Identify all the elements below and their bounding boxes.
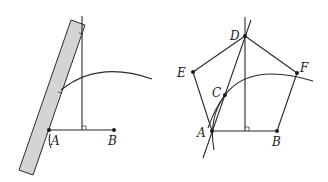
right-angle-marker [82, 126, 86, 130]
label-d: D [229, 29, 240, 43]
arc-large [61, 72, 152, 90]
edge-ea [193, 72, 212, 131]
label-a: A [50, 134, 60, 148]
point-d [243, 34, 247, 38]
point-e [191, 70, 195, 74]
point-b [112, 128, 116, 132]
edge-fd [245, 36, 297, 73]
left-figure: A B [19, 16, 152, 175]
point-a [210, 129, 214, 133]
ruler [19, 20, 85, 175]
edge-bf [277, 73, 297, 131]
label-b: B [271, 135, 281, 149]
arc-cf [212, 74, 313, 150]
point-b [275, 129, 279, 133]
label-a: A [196, 126, 206, 140]
right-figure: A B C D E F [176, 17, 313, 158]
label-b: B [107, 134, 117, 148]
geometry-diagram: A B A B C D E F [0, 0, 328, 182]
label-c: C [212, 86, 221, 100]
label-f: F [299, 61, 309, 75]
line-ad-extended [203, 20, 251, 158]
point-f [295, 71, 299, 75]
right-angle-marker [245, 127, 249, 131]
point-c [223, 93, 227, 97]
point-a [47, 128, 51, 132]
label-e: E [176, 66, 186, 80]
